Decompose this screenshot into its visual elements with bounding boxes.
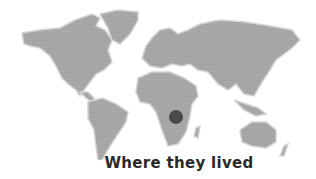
world-map (0, 0, 316, 160)
location-marker (169, 110, 183, 124)
south-america (88, 98, 128, 160)
australia (240, 122, 276, 148)
madagascar (194, 126, 200, 138)
africa (136, 72, 198, 146)
continents (22, 10, 300, 160)
map-caption: Where they lived (0, 154, 316, 172)
southeast-asia (234, 100, 266, 116)
north-america (22, 14, 112, 96)
